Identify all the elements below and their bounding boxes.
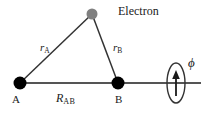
point-b-label: B (115, 94, 122, 105)
distance-rab-subscript: AB (63, 97, 75, 106)
distance-rb-subscript: B (117, 46, 122, 55)
distance-line-ra (20, 14, 92, 83)
nucleus-b-dot (112, 77, 125, 90)
diagram-canvas (0, 0, 209, 114)
distance-ra-subscript: A (44, 46, 50, 55)
electron-label: Electron (118, 5, 159, 17)
point-a-label: A (12, 94, 20, 105)
distance-ra-label: rA (40, 42, 50, 54)
phi-angle-label: ϕ (188, 56, 195, 69)
distance-rab-label: RAB (56, 92, 75, 106)
figure-container: Electron A B rA rB RAB ϕ (0, 0, 209, 114)
electron-dot (87, 9, 98, 20)
distance-rb-label: rB (113, 42, 122, 54)
nucleus-a-dot (14, 77, 27, 90)
